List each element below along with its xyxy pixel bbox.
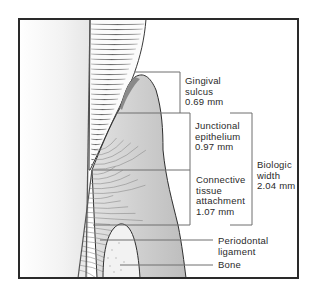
- label-line: Connective: [196, 175, 246, 186]
- label-connective-tissue: Connective tissue attachment 1.07 mm: [196, 175, 246, 217]
- enamel-line: [91, 49, 136, 50]
- bone-dot: [113, 271, 115, 273]
- label-junctional-epithelium: Junctional epithelium 0.97 mm: [195, 121, 240, 153]
- enamel-line: [91, 104, 116, 105]
- enamel-line: [91, 124, 109, 125]
- label-biologic-width: Biologic width 2.04 mm: [257, 160, 295, 192]
- enamel-line: [91, 79, 125, 80]
- bone-dot: [107, 257, 109, 259]
- bone-dot: [118, 242, 120, 244]
- label-gingival-sulcus: Gingival sulcus 0.69 mm: [185, 76, 223, 108]
- enamel-line: [91, 84, 124, 85]
- label-line: Gingival: [185, 76, 223, 87]
- bone-dot: [123, 261, 125, 263]
- biologic-width-diagram: [0, 0, 318, 295]
- enamel-line: [91, 74, 127, 75]
- enamel-line: [91, 54, 134, 55]
- enamel-line: [91, 89, 122, 90]
- enamel-line: [91, 149, 98, 150]
- label-line: Periodontal: [218, 236, 268, 247]
- enamel-line: [91, 109, 114, 110]
- tooth-root: [19, 19, 90, 278]
- label-line: Junctional: [195, 121, 240, 132]
- enamel-line: [91, 154, 96, 155]
- enamel-line: [91, 114, 112, 115]
- bone-dot: [120, 269, 122, 271]
- label-line: 0.97 mm: [195, 142, 240, 153]
- enamel-line: [91, 69, 129, 70]
- label-line: 0.69 mm: [185, 97, 223, 108]
- bone-dot: [109, 265, 111, 267]
- enamel-line: [91, 164, 92, 165]
- enamel-line: [91, 144, 101, 145]
- enamel-line: [91, 99, 118, 100]
- label-line: Bone: [218, 260, 241, 271]
- label-line: Biologic: [257, 160, 295, 171]
- label-periodontal-ligament: Periodontal ligament: [218, 236, 268, 257]
- enamel-line: [91, 39, 139, 40]
- enamel-line: [91, 34, 141, 35]
- enamel-line: [91, 64, 131, 65]
- enamel-line: [91, 59, 133, 60]
- label-line: 1.07 mm: [196, 207, 246, 218]
- label-line: 2.04 mm: [257, 181, 295, 192]
- enamel-line: [91, 139, 103, 140]
- label-bone: Bone: [218, 260, 241, 271]
- enamel-line: [91, 129, 107, 130]
- bone-dot: [115, 257, 117, 259]
- enamel-line: [91, 44, 138, 45]
- bone-dot: [111, 249, 113, 251]
- enamel-line: [91, 94, 120, 95]
- label-line: ligament: [218, 247, 268, 258]
- enamel-line: [91, 29, 143, 30]
- enamel-line: [91, 24, 144, 25]
- label-line: attachment: [196, 196, 246, 207]
- enamel-line: [91, 134, 105, 135]
- enamel-line: [91, 119, 110, 120]
